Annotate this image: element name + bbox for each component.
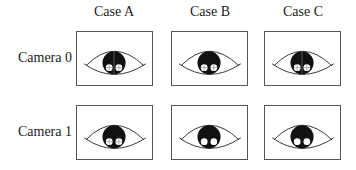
eye-cell-camera0-caseB (171, 31, 248, 86)
glint-left-icon (201, 138, 208, 145)
glint-right-icon (115, 138, 122, 145)
eye-icon (77, 32, 152, 85)
glint-right-icon (115, 64, 122, 71)
glint-left-icon (106, 138, 113, 145)
column-label-case-c: Case C (263, 4, 343, 20)
eye-icon (172, 32, 247, 85)
eye-icon (265, 32, 340, 85)
column-label-case-b: Case B (170, 4, 250, 20)
glint-left-icon (106, 64, 113, 71)
eye-cell-camera0-caseA (76, 31, 153, 86)
glint-right-icon (303, 138, 310, 145)
glint-right-icon (210, 138, 217, 145)
eye-icon (265, 106, 340, 159)
column-label-case-a: Case A (74, 4, 154, 20)
row-label-camera-0: Camera 0 (0, 50, 72, 66)
eye-cell-camera0-caseC (264, 31, 341, 86)
eye-icon (77, 106, 152, 159)
glint-right-icon (210, 64, 217, 71)
glint-right-icon (303, 64, 310, 71)
eye-cell-camera1-caseB (171, 105, 248, 160)
glint-left-icon (294, 64, 301, 71)
eye-cell-camera1-caseC (264, 105, 341, 160)
glint-left-icon (201, 64, 208, 71)
row-label-camera-1: Camera 1 (0, 124, 72, 140)
eye-icon (172, 106, 247, 159)
glint-left-icon (294, 138, 301, 145)
eye-cell-camera1-caseA (76, 105, 153, 160)
